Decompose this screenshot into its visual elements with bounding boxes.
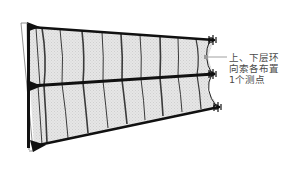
diagram-canvas: 上、下层环 向索各布置 1个测点 (0, 0, 290, 173)
annotation-line-3: 1个测点 (229, 74, 279, 85)
annotation-line-2: 向索各布置 (229, 63, 279, 74)
structure-drawing (0, 0, 290, 173)
measuring-point-marker (204, 55, 208, 59)
annotation-line-1: 上、下层环 (229, 52, 279, 63)
measuring-point-annotation: 上、下层环 向索各布置 1个测点 (229, 52, 279, 85)
